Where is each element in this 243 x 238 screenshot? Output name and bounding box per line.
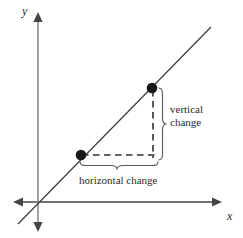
lower-point	[76, 150, 87, 161]
vertical-change-brace	[159, 88, 167, 160]
y-axis-arrow-down	[33, 222, 42, 232]
horizontal-change-label: horizontal change	[79, 174, 158, 187]
y-axis-group	[33, 12, 42, 232]
vertical-change-label-line2: change	[170, 116, 203, 129]
x-axis-arrow-right	[212, 198, 222, 207]
vertical-change-label-line1: vertical	[170, 103, 203, 116]
x-axis-group	[13, 198, 222, 207]
y-axis-label: y	[22, 5, 27, 17]
slope-diagram-figure: y x vertical change horizontal change	[0, 0, 243, 238]
x-axis-arrow-left	[13, 198, 23, 207]
vertical-change-label: vertical change	[170, 103, 203, 129]
horizontal-change-brace	[80, 162, 158, 170]
x-axis-label: x	[227, 210, 232, 222]
upper-point	[147, 83, 158, 94]
y-axis-arrow-up	[33, 12, 42, 22]
diagram-canvas	[0, 0, 243, 238]
